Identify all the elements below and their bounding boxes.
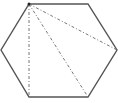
vertex-marker <box>28 3 31 6</box>
hexagon-diagram <box>0 0 118 103</box>
hexagon-outline <box>1 4 117 97</box>
diagonals <box>29 4 117 97</box>
diagonal-line <box>29 4 117 50</box>
diagonal-line <box>29 4 88 97</box>
